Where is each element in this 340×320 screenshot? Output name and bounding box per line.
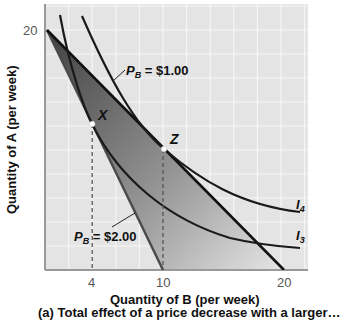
x-tick-10: 10 xyxy=(156,275,170,290)
point-z-marker xyxy=(161,146,167,152)
x-tick-4: 4 xyxy=(88,275,95,290)
x-tick-20: 20 xyxy=(277,275,291,290)
y-tick-20: 20 xyxy=(23,23,37,38)
y-axis-label: Quantity of A (per week) xyxy=(4,65,19,214)
point-x-label: X xyxy=(97,107,109,123)
figure-caption: (a) Total effect of a price decrease wit… xyxy=(38,305,340,320)
point-z-label: Z xyxy=(169,131,179,147)
point-x-marker xyxy=(89,121,95,127)
